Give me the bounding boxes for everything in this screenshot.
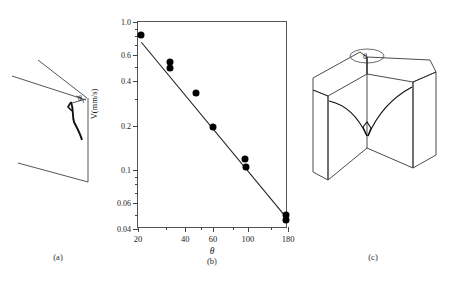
data-point <box>193 90 200 97</box>
panel-c: θ (c) <box>305 0 456 250</box>
data-point <box>167 64 174 71</box>
panel-a-label: (a) <box>38 252 78 262</box>
x-axis-title: θ <box>210 246 215 256</box>
right-top-face <box>367 57 436 82</box>
left-top-face <box>313 52 367 96</box>
figure-root: θ (a) V(mm/s) 0.040.060.10.20.40.61.0204… <box>0 0 456 286</box>
crack-front-left <box>329 101 367 136</box>
y-tick-label: 0.04 <box>117 225 131 234</box>
data-point <box>283 217 290 224</box>
theta-symbol-c: θ <box>363 52 367 61</box>
top-left-edge <box>12 76 86 100</box>
panel-c-label: (c) <box>353 252 393 262</box>
plot-area: 0.040.060.10.20.40.61.0204060100180 <box>138 22 286 227</box>
x-tick-label: 60 <box>209 234 218 244</box>
x-tick-label: 100 <box>241 234 254 244</box>
data-point <box>138 31 145 38</box>
y-axis-title: V(mm/s) <box>89 89 99 120</box>
x-tick-label: 180 <box>282 234 295 244</box>
plot-frame: 0.040.060.10.20.40.61.0204060100180 <box>137 21 287 228</box>
y-tick-label: 0.4 <box>121 76 131 85</box>
inner-lower-edge <box>328 148 413 180</box>
data-point <box>242 163 249 170</box>
theta-symbol-a: θ <box>78 94 82 103</box>
y-tick-label: 0.6 <box>121 50 131 59</box>
x-tick-major <box>288 227 289 232</box>
crack-path <box>71 102 82 140</box>
y-tick-label: 0.06 <box>117 198 131 207</box>
x-tick-label: 40 <box>181 234 190 244</box>
x-tick-label: 20 <box>134 234 143 244</box>
data-point <box>210 124 217 131</box>
left-front-face <box>313 90 328 180</box>
right-side-face <box>413 72 436 168</box>
data-point <box>242 156 249 163</box>
panel-b-label: (b) <box>192 256 232 266</box>
y-tick-label: 0.1 <box>121 166 131 175</box>
panel-b: V(mm/s) 0.040.060.10.20.40.61.0204060100… <box>100 0 310 260</box>
crack-front-right <box>368 87 412 136</box>
lower-left-edge <box>18 163 88 182</box>
y-tick-label: 0.2 <box>121 121 131 130</box>
panel-c-drawing: θ <box>305 0 456 250</box>
y-tick-label: 1.0 <box>121 18 131 27</box>
